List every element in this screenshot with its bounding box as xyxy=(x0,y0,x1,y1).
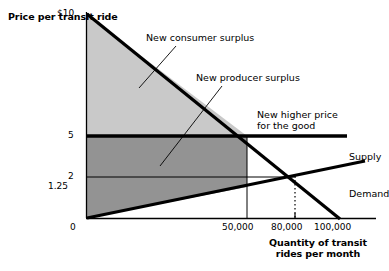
x-axis-title: Quantity of transit rides per month xyxy=(252,238,384,259)
annotation-new-consumer-surplus: New consumer surplus xyxy=(146,33,254,44)
annotation-new-higher-price: New higher price for the good xyxy=(257,110,338,131)
series-label-demand: Demand xyxy=(349,189,389,200)
y-tick-label-2: 2 xyxy=(68,171,74,181)
y-tick-label-1.25: 1.25 xyxy=(48,181,68,191)
annotation-new-producer-surplus: New producer surplus xyxy=(196,73,300,84)
x-tick-label-50000: 50,000 xyxy=(222,222,254,232)
economics-surplus-chart: Price per transit ride Quantity of trans… xyxy=(0,0,389,271)
y-tick-label-0: 0 xyxy=(70,222,76,232)
x-axis-title-line1: Quantity of transit xyxy=(269,237,367,248)
annotation-new-higher-price-line1: New higher price xyxy=(257,109,338,120)
x-tick-label-100000: 100,000 xyxy=(314,222,351,232)
annotation-new-higher-price-line2: for the good xyxy=(257,120,315,131)
series-label-supply: Supply xyxy=(349,152,381,163)
x-axis-title-line2: rides per month xyxy=(276,248,360,259)
x-tick-label-80000: 80,000 xyxy=(271,222,303,232)
y-tick-label-10: $10 xyxy=(57,8,74,18)
y-tick-label-5: 5 xyxy=(68,130,74,140)
